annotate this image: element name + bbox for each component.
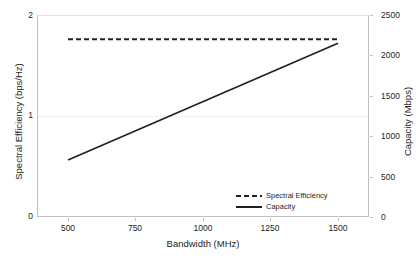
- y-right-tickmark-1000: [370, 136, 373, 137]
- legend-item-spectral-efficiency[interactable]: Spectral Efficiency: [236, 192, 328, 200]
- y-right-tick-2000: 2000: [381, 51, 400, 60]
- y-right-tick-1500: 1500: [381, 92, 400, 101]
- x-tick-500: 500: [48, 224, 88, 233]
- series-line-capacity: [68, 43, 338, 160]
- y-right-tickmark-2500: [370, 15, 373, 16]
- y-right-tickmark-1500: [370, 96, 373, 97]
- x-tickmark-750: [135, 218, 136, 221]
- x-tick-750: 750: [115, 224, 155, 233]
- y-axis-left-title: Spectral Efficiency (bps/Hz): [13, 42, 24, 202]
- series-layer: [37, 15, 369, 217]
- x-tickmark-1500: [338, 218, 339, 221]
- y-right-tickmark-0: [370, 217, 373, 218]
- y-right-tick-1000: 1000: [381, 132, 400, 141]
- y-right-tickmark-500: [370, 177, 373, 178]
- legend-label-spectral-efficiency: Spectral Efficiency: [266, 192, 328, 200]
- legend-item-capacity[interactable]: Capacity: [236, 203, 328, 211]
- y-right-tick-500: 500: [381, 173, 395, 182]
- legend-label-capacity: Capacity: [266, 203, 295, 211]
- x-tickmark-500: [68, 218, 69, 221]
- y-left-tick-1: 1: [28, 111, 33, 120]
- x-tickmark-1000: [203, 218, 204, 221]
- x-tickmark-1250: [270, 218, 271, 221]
- x-axis-title: Bandwidth (MHz): [37, 238, 369, 249]
- x-tick-1250: 1250: [250, 224, 290, 233]
- y-right-tick-2500: 2500: [381, 11, 400, 20]
- y-left-tick-0: 0: [28, 212, 33, 221]
- y-right-tickmark-2000: [370, 55, 373, 56]
- legend-swatch-solid-icon: [236, 206, 262, 208]
- x-tick-1500: 1500: [318, 224, 358, 233]
- legend-swatch-dashed-icon: [236, 195, 262, 197]
- y-axis-right-title: Capacity (Mbps): [402, 42, 413, 202]
- y-left-tick-2: 2: [28, 11, 33, 20]
- x-tick-1000: 1000: [183, 224, 223, 233]
- chart-container: 2 1 0 2500 2000 1500 1000 500 0 500 750 …: [0, 0, 416, 259]
- y-right-tick-0: 0: [381, 213, 386, 222]
- legend: Spectral Efficiency Capacity: [236, 192, 328, 211]
